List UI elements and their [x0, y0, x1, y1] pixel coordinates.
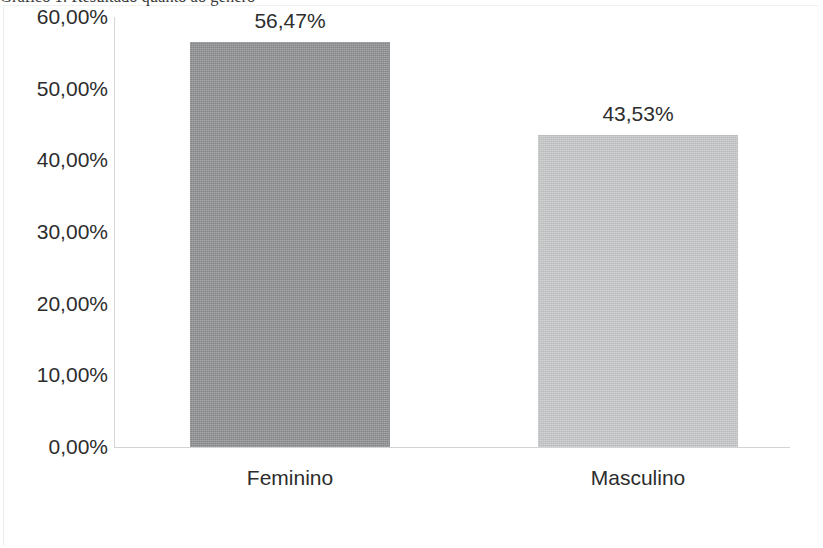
- data-label-masculino: 43,53%: [528, 103, 748, 125]
- bar-masculino[interactable]: [538, 135, 738, 447]
- bar-series: [0, 0, 823, 448]
- chart-page: Gráfico 1: Resultado quanto ao gênero 60…: [0, 0, 823, 548]
- bar-fill-texture: [190, 42, 390, 447]
- data-label-feminino: 56,47%: [180, 10, 400, 32]
- bar-feminino[interactable]: [190, 42, 390, 447]
- category-label-masculino: Masculino: [508, 466, 768, 490]
- category-label-feminino: Feminino: [160, 466, 420, 490]
- bar-fill-texture: [538, 135, 738, 447]
